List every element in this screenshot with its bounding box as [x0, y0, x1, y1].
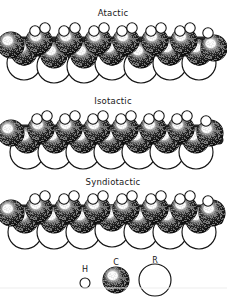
legend-label-carbon: C	[113, 258, 119, 267]
legend-glyph-carbon	[103, 267, 129, 293]
row-atactic: Atactic	[0, 8, 227, 83]
isotactic-chain	[0, 111, 223, 169]
legend: H C R	[80, 256, 171, 296]
legend-item-hydrogen: H	[80, 265, 90, 288]
row-title-syndiotactic: Syndiotactic	[86, 177, 141, 187]
row-title-atactic: Atactic	[98, 8, 129, 18]
tacticity-figure: Atactic	[0, 0, 227, 300]
row-isotactic: Isotactic	[0, 96, 223, 169]
legend-glyph-rgroup	[139, 264, 171, 296]
legend-item-rgroup: R	[139, 256, 171, 296]
atactic-chain	[0, 23, 227, 83]
syndiotactic-chain	[0, 191, 225, 249]
row-title-isotactic: Isotactic	[94, 96, 132, 106]
legend-glyph-hydrogen	[80, 278, 90, 288]
legend-label-hydrogen: H	[82, 265, 88, 274]
row-syndiotactic: Syndiotactic	[0, 177, 225, 249]
